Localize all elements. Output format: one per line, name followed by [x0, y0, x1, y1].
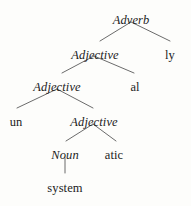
tree-node-adj3: Adjective: [70, 116, 117, 129]
tree-node-system: system: [47, 182, 82, 195]
tree-node-adverb: Adverb: [113, 14, 150, 27]
tree-node-noun: Noun: [51, 149, 79, 162]
tree-node-un: un: [10, 116, 23, 129]
derivation-tree-figure: AdverbAdjectivelyAdjectivealunAdjectiveN…: [0, 0, 191, 206]
tree-node-adj2: Adjective: [33, 81, 80, 94]
tree-node-atic: atic: [105, 149, 123, 162]
tree-node-adj1: Adjective: [71, 49, 118, 62]
tree-edge-layer: [0, 0, 191, 206]
tree-node-ly: ly: [165, 49, 175, 62]
tree-node-al: al: [130, 81, 139, 94]
